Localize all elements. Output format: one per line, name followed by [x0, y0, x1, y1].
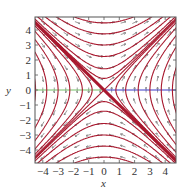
y-tick-label: 0 — [26, 84, 32, 96]
trajectory-curve — [12, 0, 189, 23]
x-tick-label: −1 — [83, 165, 95, 177]
y-tick-label: 3 — [26, 39, 32, 51]
y-tick-label: 2 — [26, 54, 32, 66]
y-tick-label: −1 — [19, 99, 31, 111]
y-tick-label: 4 — [26, 24, 32, 36]
x-axis-label: x — [100, 177, 106, 189]
y-tick-label: −2 — [19, 114, 31, 126]
x-tick-label: −4 — [37, 165, 49, 177]
trajectory-curve — [12, 0, 189, 78]
x-tick-label: −3 — [52, 165, 64, 177]
y-tick-label: −4 — [19, 144, 31, 156]
x-tick-label: −2 — [68, 165, 80, 177]
x-tick-label: 0 — [101, 165, 107, 177]
x-tick-label: 2 — [132, 165, 138, 177]
x-tick-label: 3 — [147, 165, 153, 177]
x-tick-label: 1 — [117, 165, 123, 177]
y-axis-label: y — [5, 84, 11, 96]
x-tick-label: 4 — [162, 165, 168, 177]
phase-portrait-chart: −4−3−2−101234 43210−1−2−3−4 x y — [0, 0, 189, 190]
y-tick-label: 1 — [26, 69, 32, 81]
y-tick-label: −3 — [19, 129, 31, 141]
